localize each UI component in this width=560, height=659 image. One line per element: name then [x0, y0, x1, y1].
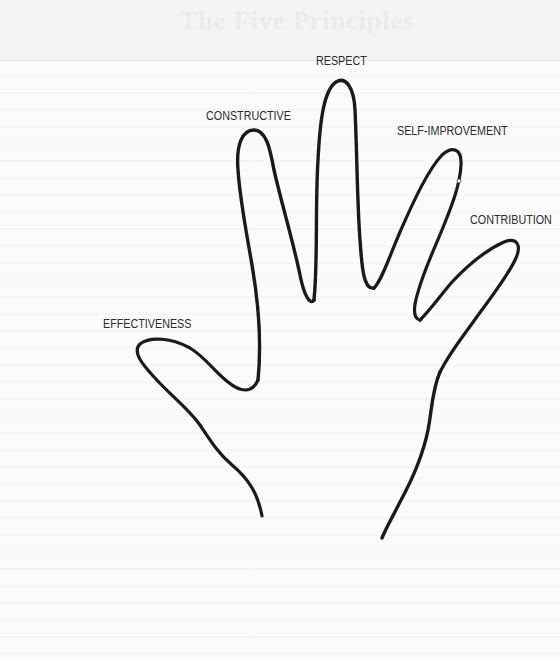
- ring-marker-icon: [457, 179, 461, 183]
- right-wrist-stroke: [382, 372, 440, 538]
- ring-finger-stroke: [374, 150, 461, 320]
- hand-outline-icon: [0, 0, 560, 659]
- pinky-finger-stroke: [420, 240, 518, 372]
- label-ring-finger: SELF-IMPROVEMENT: [397, 124, 508, 138]
- label-thumb: EFFECTIVENESS: [103, 317, 191, 331]
- middle-finger-stroke: [314, 80, 374, 300]
- index-finger-stroke: [238, 130, 314, 380]
- label-pinky-finger: CONTRIBUTION: [470, 213, 552, 227]
- label-index-finger: CONSTRUCTIVE: [206, 109, 291, 123]
- left-wrist-and-thumb-stroke: [137, 339, 262, 516]
- label-middle-finger: RESPECT: [316, 54, 367, 68]
